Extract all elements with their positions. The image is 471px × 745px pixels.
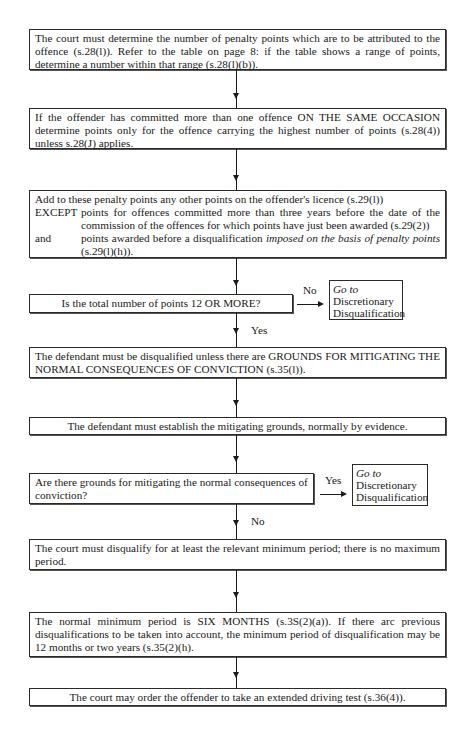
decision-mitigating-grounds: Are there grounds for mitigating the nor… xyxy=(29,473,314,504)
step-text: The defendant must be disqualified unles… xyxy=(35,350,440,375)
goto-line2: Disqualification xyxy=(356,491,424,503)
arrow-down-icon xyxy=(233,175,239,181)
step-must-be-disqualified: The defendant must be disqualified unles… xyxy=(29,347,446,378)
except-text: points for offences committed more than … xyxy=(81,206,440,232)
arrow-down-icon xyxy=(233,280,239,286)
step-six-months: The normal minimum period is SIX MONTHS … xyxy=(29,612,446,657)
goto-line2: Disqualification xyxy=(333,307,399,319)
arrow-down-icon xyxy=(233,400,239,406)
step-text: The court must disqualify for at least t… xyxy=(35,542,440,567)
connector-line xyxy=(236,570,237,612)
arrow-right-icon xyxy=(341,491,347,497)
decision-text: Is the total number of points 12 OR MORE… xyxy=(62,297,261,309)
and-text: points awarded before a disqualification… xyxy=(81,232,440,258)
connector-line xyxy=(236,378,237,417)
connector-line xyxy=(236,258,237,294)
step-same-occasion: If the offender has committed more than … xyxy=(29,108,446,149)
step-intro: Add to these penalty points any other po… xyxy=(35,193,440,206)
arrow-down-icon xyxy=(233,328,239,334)
step-minimum-period: The court must disqualify for at least t… xyxy=(29,539,446,570)
yes-label: Yes xyxy=(325,474,341,486)
step-text: If the offender has committed more than … xyxy=(35,111,440,149)
arrow-right-icon xyxy=(318,301,324,307)
yes-label: Yes xyxy=(251,324,267,336)
and-text-prefix: points awarded before a disqualification xyxy=(81,232,266,244)
goto-label: Go to xyxy=(333,283,399,295)
connector-line xyxy=(236,435,237,474)
connector-line xyxy=(236,70,237,108)
goto-discretionary-disqualification-2: Go to Discretionary Disqualification xyxy=(352,464,428,506)
arrow-down-icon xyxy=(233,93,239,99)
and-label: and xyxy=(35,232,81,258)
step-add-licence-points: Add to these penalty points any other po… xyxy=(29,190,446,258)
arrow-down-icon xyxy=(233,672,239,678)
except-label: EXCEPT xyxy=(35,206,81,232)
arrow-down-icon xyxy=(233,520,239,526)
goto-discretionary-disqualification-1: Go to Discretionary Disqualification xyxy=(329,280,403,320)
arrow-down-icon xyxy=(233,592,239,598)
step-extended-driving-test: The court may order the offender to take… xyxy=(29,688,446,706)
step-text: The court may order the offender to take… xyxy=(70,691,406,703)
arrow-down-icon xyxy=(233,456,239,462)
goto-line1: Discretionary xyxy=(333,295,399,307)
goto-label: Go to xyxy=(356,467,424,479)
connector-line xyxy=(297,304,319,305)
decision-12-or-more: Is the total number of points 12 OR MORE… xyxy=(29,294,293,313)
step-determine-penalty-points: The court must determine the number of p… xyxy=(29,29,446,70)
step-text: The normal minimum period is SIX MONTHS … xyxy=(35,615,440,653)
goto-line1: Discretionary xyxy=(356,479,424,491)
connector-line xyxy=(236,149,237,190)
no-label: No xyxy=(251,515,265,527)
connector-line xyxy=(320,494,342,495)
no-label: No xyxy=(303,284,317,296)
step-text: The court must determine the number of p… xyxy=(35,32,440,70)
and-text-italic: imposed on the basis of penalty points xyxy=(266,232,440,244)
decision-text: Are there grounds for mitigating the nor… xyxy=(35,476,308,501)
and-text-suffix: (s.29(l)(h)). xyxy=(81,245,133,257)
step-text: The defendant must establish the mitigat… xyxy=(67,420,407,432)
step-establish-mitigating-grounds: The defendant must establish the mitigat… xyxy=(29,417,446,435)
